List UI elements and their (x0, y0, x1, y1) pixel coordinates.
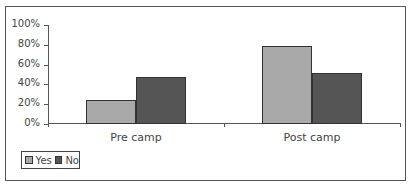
y-tick-label: 80% (0, 38, 40, 49)
bar-no (136, 77, 186, 124)
legend-label-yes: Yes (36, 155, 52, 166)
legend-label-no: No (65, 155, 79, 166)
x-tick-mark (224, 123, 225, 127)
bar-yes (262, 46, 312, 124)
y-tick-label: 60% (0, 58, 40, 69)
x-tick-mark (400, 123, 401, 127)
y-tick-label: 20% (0, 97, 40, 108)
x-category-label: Post camp (252, 131, 372, 144)
x-tick-mark (48, 123, 49, 127)
y-tick-label: 40% (0, 77, 40, 88)
bar-no (312, 73, 362, 124)
y-tick-label: 100% (0, 18, 40, 29)
legend: Yes No (21, 151, 80, 169)
legend-swatch-yes (25, 156, 33, 164)
bar-yes (86, 100, 136, 124)
x-category-label: Pre camp (76, 131, 196, 144)
legend-swatch-no (55, 156, 63, 164)
y-tick-label: 0% (0, 117, 40, 128)
y-axis (48, 25, 49, 124)
